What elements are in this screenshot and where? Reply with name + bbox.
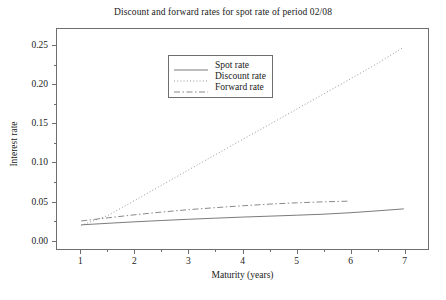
y-tick-label: 0.15 <box>2 118 48 128</box>
x-tick-minor-mark <box>161 250 162 252</box>
x-tick-mark <box>405 250 406 254</box>
x-tick-mark <box>188 250 189 254</box>
legend-label: Forward rate <box>215 82 264 93</box>
chart-title: Discount and forward rates for spot rate… <box>0 7 446 17</box>
legend-item: Forward rate <box>174 82 266 93</box>
x-tick-mark <box>80 250 81 254</box>
x-tick-minor-mark <box>107 250 108 252</box>
series-line-spot-rate <box>81 209 404 225</box>
x-axis-label: Maturity (years) <box>56 270 429 280</box>
y-tick-label: 0.20 <box>2 79 48 89</box>
x-tick-minor-mark <box>215 250 216 252</box>
x-tick-label: 1 <box>65 256 95 266</box>
legend-label: Discount rate <box>215 71 266 82</box>
x-tick-label: 3 <box>173 256 203 266</box>
chart-legend: Spot rateDiscount rateForward rate <box>168 55 273 98</box>
y-tick-label: 0.25 <box>2 40 48 50</box>
x-tick-minor-mark <box>378 250 379 252</box>
x-tick-label: 2 <box>119 256 149 266</box>
y-tick-label: 0.00 <box>2 236 48 246</box>
x-tick-mark <box>134 250 135 254</box>
x-tick-label: 6 <box>336 256 366 266</box>
x-tick-label: 4 <box>228 256 258 266</box>
x-tick-label: 5 <box>282 256 312 266</box>
y-tick-label: 0.10 <box>2 157 48 167</box>
y-axis-label: Interest rate <box>9 94 19 194</box>
x-tick-minor-mark <box>270 250 271 252</box>
legend-line-swatch <box>174 72 208 82</box>
legend-item: Discount rate <box>174 71 266 82</box>
y-tick-label: 0.05 <box>2 197 48 207</box>
legend-item: Spot rate <box>174 60 266 71</box>
x-tick-mark <box>297 250 298 254</box>
legend-line-swatch <box>174 61 208 71</box>
legend-label: Spot rate <box>215 60 249 71</box>
x-tick-minor-mark <box>324 250 325 252</box>
x-tick-mark <box>243 250 244 254</box>
legend-line-swatch <box>174 83 208 93</box>
x-tick-mark <box>351 250 352 254</box>
x-tick-label: 7 <box>390 256 420 266</box>
chart-figure: Discount and forward rates for spot rate… <box>0 0 446 300</box>
